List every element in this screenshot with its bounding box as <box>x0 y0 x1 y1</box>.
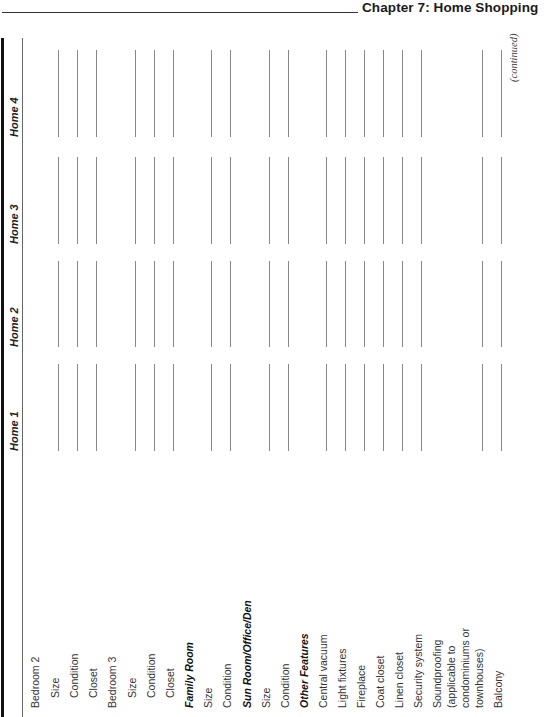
fill-in-line-home-4[interactable] <box>402 50 403 137</box>
fill-in-line-home-3[interactable] <box>173 157 174 244</box>
fill-in-line-home-2[interactable] <box>154 261 155 347</box>
fill-in-line-home-1[interactable] <box>230 364 231 451</box>
fill-in-line-home-1[interactable] <box>326 364 327 451</box>
fill-in-line-home-4[interactable] <box>230 50 231 137</box>
table-header-rule <box>22 38 23 717</box>
fill-in-line-home-3[interactable] <box>230 157 231 244</box>
row-label: Condition <box>222 664 233 708</box>
row-label: Central vacuum <box>318 634 329 708</box>
fill-in-line-home-2[interactable] <box>501 261 502 347</box>
fill-in-line-home-4[interactable] <box>173 50 174 137</box>
fill-in-line-home-4[interactable] <box>77 50 78 137</box>
fill-in-line-home-2[interactable] <box>173 261 174 347</box>
fill-in-line-home-3[interactable] <box>482 157 483 244</box>
fill-in-line-home-4[interactable] <box>96 50 97 137</box>
fill-in-line-home-2[interactable] <box>58 261 59 347</box>
fill-in-line-home-3[interactable] <box>345 157 346 244</box>
fill-in-line-home-3[interactable] <box>58 157 59 244</box>
row-label: (applicable to <box>446 646 457 708</box>
row-label: Bedroom 3 <box>107 657 118 708</box>
row-label: Bedroom 2 <box>30 657 41 708</box>
fill-in-line-home-2[interactable] <box>482 261 483 347</box>
fill-in-line-home-1[interactable] <box>402 364 403 451</box>
fill-in-line-home-3[interactable] <box>501 157 502 244</box>
fill-in-line-home-2[interactable] <box>96 261 97 347</box>
fill-in-line-home-2[interactable] <box>364 261 365 347</box>
fill-in-line-home-1[interactable] <box>383 364 384 451</box>
fill-in-line-home-4[interactable] <box>501 50 502 137</box>
fill-in-line-home-1[interactable] <box>364 364 365 451</box>
row-label: Light fixtures <box>337 648 348 708</box>
fill-in-line-home-2[interactable] <box>211 261 212 347</box>
fill-in-line-home-4[interactable] <box>326 50 327 137</box>
fill-in-line-home-4[interactable] <box>58 50 59 137</box>
fill-in-line-home-1[interactable] <box>58 364 59 451</box>
fill-in-line-home-4[interactable] <box>288 50 289 137</box>
fill-in-line-home-4[interactable] <box>482 50 483 137</box>
fill-in-line-home-2[interactable] <box>345 261 346 347</box>
row-label: Fireplace <box>356 665 367 708</box>
fill-in-line-home-4[interactable] <box>135 50 136 137</box>
fill-in-line-home-4[interactable] <box>383 50 384 137</box>
fill-in-line-home-2[interactable] <box>230 261 231 347</box>
row-label: Sun Room/Office/Den <box>242 600 253 708</box>
column-header-home-4: Home 4 <box>8 97 20 137</box>
row-label: Closet <box>165 668 176 698</box>
fill-in-line-home-4[interactable] <box>421 50 422 137</box>
row-label: Balcony <box>493 671 504 708</box>
fill-in-line-home-3[interactable] <box>326 157 327 244</box>
fill-in-line-home-4[interactable] <box>211 50 212 137</box>
fill-in-line-home-2[interactable] <box>383 261 384 347</box>
fill-in-line-home-2[interactable] <box>421 261 422 347</box>
fill-in-line-home-3[interactable] <box>383 157 384 244</box>
fill-in-line-home-3[interactable] <box>77 157 78 244</box>
fill-in-line-home-3[interactable] <box>421 157 422 244</box>
fill-in-line-home-3[interactable] <box>288 157 289 244</box>
row-label: Condition <box>280 664 291 708</box>
fill-in-line-home-1[interactable] <box>77 364 78 451</box>
fill-in-line-home-4[interactable] <box>364 50 365 137</box>
fill-in-line-home-1[interactable] <box>154 364 155 451</box>
fill-in-line-home-3[interactable] <box>135 157 136 244</box>
row-label: Family Room <box>184 642 195 708</box>
fill-in-line-home-3[interactable] <box>364 157 365 244</box>
fill-in-line-home-1[interactable] <box>345 364 346 451</box>
fill-in-line-home-1[interactable] <box>173 364 174 451</box>
row-label: Size <box>203 688 214 708</box>
chapter-title: Chapter 7: Home Shopping <box>362 0 538 15</box>
fill-in-line-home-1[interactable] <box>269 364 270 451</box>
fill-in-line-home-3[interactable] <box>402 157 403 244</box>
table-top-rule <box>1 38 4 717</box>
fill-in-line-home-2[interactable] <box>402 261 403 347</box>
row-label: Condition <box>146 654 157 698</box>
fill-in-line-home-1[interactable] <box>501 364 502 451</box>
fill-in-line-home-3[interactable] <box>211 157 212 244</box>
column-header-home-3: Home 3 <box>8 204 20 244</box>
fill-in-line-home-3[interactable] <box>154 157 155 244</box>
row-label: condominiums or <box>460 628 471 708</box>
fill-in-line-home-1[interactable] <box>135 364 136 451</box>
fill-in-line-home-2[interactable] <box>77 261 78 347</box>
row-label: Linen closet <box>394 652 405 708</box>
fill-in-line-home-2[interactable] <box>288 261 289 347</box>
fill-in-line-home-3[interactable] <box>269 157 270 244</box>
row-label: Coat closet <box>375 655 386 708</box>
fill-in-line-home-4[interactable] <box>269 50 270 137</box>
fill-in-line-home-1[interactable] <box>482 364 483 451</box>
fill-in-line-home-1[interactable] <box>211 364 212 451</box>
row-label: Condition <box>69 654 80 698</box>
fill-in-line-home-4[interactable] <box>154 50 155 137</box>
fill-in-line-home-3[interactable] <box>96 157 97 244</box>
fill-in-line-home-2[interactable] <box>135 261 136 347</box>
row-label: Size <box>127 678 138 698</box>
row-label: Soundproofing <box>432 640 443 708</box>
column-header-home-2: Home 2 <box>8 307 20 347</box>
fill-in-line-home-2[interactable] <box>269 261 270 347</box>
fill-in-line-home-2[interactable] <box>326 261 327 347</box>
fill-in-line-home-1[interactable] <box>96 364 97 451</box>
row-label: Security system <box>413 634 424 708</box>
fill-in-line-home-1[interactable] <box>421 364 422 451</box>
fill-in-line-home-4[interactable] <box>345 50 346 137</box>
continued-note: (continued) <box>508 34 519 82</box>
fill-in-line-home-1[interactable] <box>288 364 289 451</box>
